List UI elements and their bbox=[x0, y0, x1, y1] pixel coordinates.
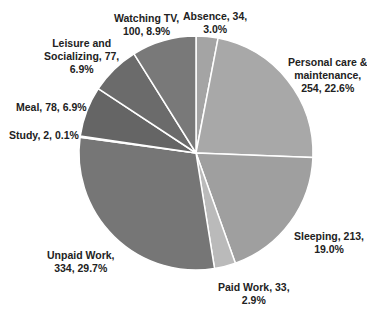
label-watching-tv-line1: Watching TV, bbox=[114, 12, 179, 25]
label-meal-line1: Meal, 78, 6.9% bbox=[16, 101, 87, 114]
label-leisure-line1: Leisure and bbox=[44, 37, 119, 50]
label-leisure-line3: 6.9% bbox=[44, 63, 119, 76]
label-sleeping: Sleeping, 213, 19.0% bbox=[294, 230, 364, 256]
label-personal-care-line3: 254, 22.6% bbox=[288, 82, 367, 95]
label-unpaid-work-line1: Unpaid Work, bbox=[47, 249, 114, 262]
label-study: Study, 2, 0.1% bbox=[9, 129, 79, 142]
label-unpaid-work: Unpaid Work, 334, 29.7% bbox=[47, 249, 114, 275]
label-meal: Meal, 78, 6.9% bbox=[16, 101, 87, 114]
label-personal-care-line2: maintenance, bbox=[288, 69, 367, 82]
label-leisure: Leisure and Socializing, 77, 6.9% bbox=[44, 37, 119, 76]
label-paid-work-line1: Paid Work, 33, bbox=[218, 281, 290, 294]
label-personal-care: Personal care & maintenance, 254, 22.6% bbox=[288, 56, 367, 95]
label-watching-tv: Watching TV, 100, 8.9% bbox=[114, 12, 179, 38]
label-sleeping-line1: Sleeping, 213, bbox=[294, 230, 364, 243]
label-sleeping-line2: 19.0% bbox=[294, 243, 364, 256]
label-watching-tv-line2: 100, 8.9% bbox=[114, 25, 179, 38]
label-leisure-line2: Socializing, 77, bbox=[44, 50, 119, 63]
label-absence: Absence, 34, 3.0% bbox=[183, 10, 247, 36]
label-paid-work: Paid Work, 33, 2.9% bbox=[218, 281, 290, 307]
label-absence-line1: Absence, 34, bbox=[183, 10, 247, 23]
label-study-line1: Study, 2, 0.1% bbox=[9, 129, 79, 142]
label-unpaid-work-line2: 334, 29.7% bbox=[47, 262, 114, 275]
label-paid-work-line2: 2.9% bbox=[218, 294, 290, 307]
label-personal-care-line1: Personal care & bbox=[288, 56, 367, 69]
label-absence-line2: 3.0% bbox=[183, 23, 247, 36]
